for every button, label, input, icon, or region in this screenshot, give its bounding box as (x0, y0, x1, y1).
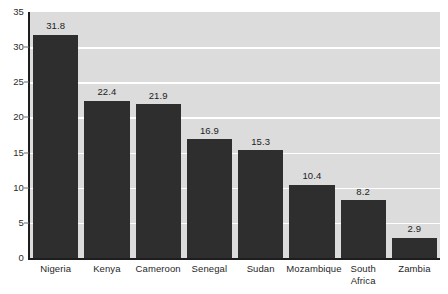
cropped-title-strip (0, 0, 448, 5)
bar-group[interactable]: 2.9 (392, 12, 437, 258)
bar-value-label: 8.2 (341, 187, 386, 197)
y-axis-tick-label: 30 (2, 42, 24, 52)
y-axis-tick-mark (24, 82, 29, 83)
y-axis-tick-label: 15 (2, 148, 24, 158)
bar-group[interactable]: 31.8 (33, 12, 78, 258)
y-axis-tick-label: 35 (2, 7, 24, 17)
bar-group[interactable]: 22.4 (84, 12, 129, 258)
bar-group[interactable]: 8.2 (341, 12, 386, 258)
bar-value-label: 10.4 (289, 171, 334, 181)
x-axis-category-label: Nigeria (30, 263, 81, 275)
x-axis-category-label: Kenya (81, 263, 132, 275)
y-axis-tick-label: 5 (2, 218, 24, 228)
bar[interactable] (289, 185, 334, 258)
bar[interactable] (187, 139, 232, 258)
y-axis-tick-mark (24, 222, 29, 223)
x-axis-category-label: Sudan (235, 263, 286, 275)
y-axis-tick-mark (24, 152, 29, 153)
bar[interactable] (238, 150, 283, 258)
y-axis-tick-mark (24, 187, 29, 188)
x-axis-category-label: Zambia (389, 263, 440, 275)
y-axis-tick-label: 25 (2, 78, 24, 88)
x-axis-category-label: Senegal (184, 263, 235, 275)
x-axis-category-labels: NigeriaKenyaCameroonSenegalSudanMozambiq… (30, 263, 440, 294)
y-axis-tick-mark (24, 117, 29, 118)
x-axis-category-label: SouthAfrica (338, 263, 389, 286)
bar-value-label: 15.3 (238, 137, 283, 147)
bar[interactable] (341, 200, 386, 258)
bar-value-label: 31.8 (33, 21, 78, 31)
bar-group[interactable]: 16.9 (187, 12, 232, 258)
bar-group[interactable]: 10.4 (289, 12, 334, 258)
x-axis-line (28, 258, 440, 260)
bar[interactable] (33, 35, 78, 259)
bar-group[interactable]: 21.9 (136, 12, 181, 258)
y-axis-tick-mark (24, 47, 29, 48)
bar-value-label: 22.4 (84, 87, 129, 97)
bar-value-label: 2.9 (392, 224, 437, 234)
x-axis-category-label: Cameroon (133, 263, 184, 275)
bar-value-label: 16.9 (187, 126, 232, 136)
y-axis-tick-label: 20 (2, 113, 24, 123)
bar[interactable] (136, 104, 181, 258)
bars-layer: 31.822.421.916.915.310.48.22.9 (30, 12, 440, 258)
bar[interactable] (84, 101, 129, 258)
bar-chart: 31.822.421.916.915.310.48.22.9 353025201… (0, 0, 448, 294)
bar-group[interactable]: 15.3 (238, 12, 283, 258)
x-axis-category-label: Mozambique (286, 263, 337, 275)
bar-value-label: 21.9 (136, 91, 181, 101)
y-axis-tick-labels: 35302520151050 (0, 0, 24, 294)
y-axis-tick-label: 10 (2, 183, 24, 193)
bar[interactable] (392, 238, 437, 258)
y-axis-tick-label: 0 (2, 253, 24, 263)
